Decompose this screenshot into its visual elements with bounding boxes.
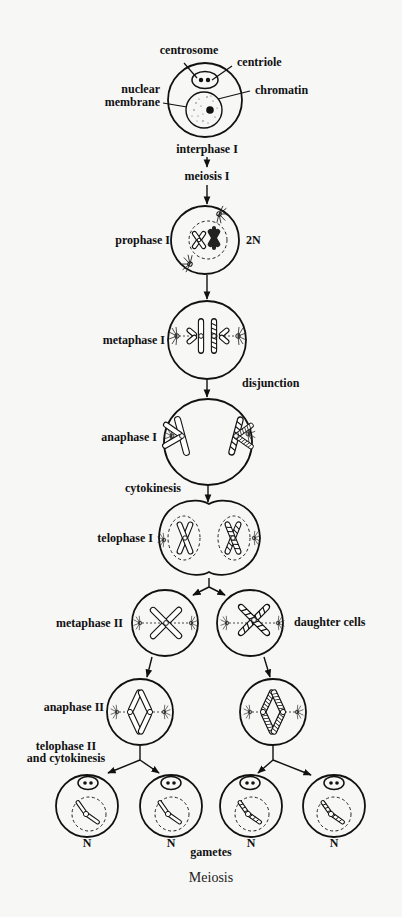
arrow-icon (258, 760, 273, 773)
gamete-cell-2 (140, 775, 202, 837)
label-meiosis: meiosis I (185, 169, 230, 183)
nucleolus-icon (206, 106, 214, 114)
label-metaphase2: metaphase II (56, 616, 123, 630)
metaphase2-cell-left (132, 590, 198, 656)
label-telophase2-2: and cytokinesis (27, 751, 106, 765)
anaphase2-cell-left (107, 679, 173, 745)
arrow-icon (193, 587, 209, 595)
label-cytokinesis: cytokinesis (125, 481, 181, 495)
arrow-icon (140, 760, 159, 773)
metaphase2-cell-right (217, 590, 284, 656)
centrosome-icon (192, 72, 218, 89)
gamete-cell-4 (303, 775, 365, 837)
label-ploidy-4: N (330, 836, 339, 850)
label-telophase1: telophase I (97, 531, 153, 545)
label-ploidy-3: N (247, 836, 256, 850)
label-prophase: prophase I (115, 233, 170, 247)
label-nuclear-membrane-1: nuclear (121, 82, 160, 96)
telophase1-cell (158, 501, 261, 575)
label-metaphase1: metaphase I (103, 333, 166, 347)
arrow-icon (147, 657, 152, 677)
label-centrosome: centrosome (160, 43, 219, 57)
arrow-icon (209, 587, 225, 595)
figure-caption: Meiosis (189, 870, 233, 885)
interphase-cell (163, 63, 250, 137)
label-ploidy-2: N (167, 836, 176, 850)
label-anaphase2: anaphase II (44, 700, 105, 714)
anaphase1-cell (162, 399, 256, 485)
arrow-icon (264, 657, 270, 677)
metaphase1-cell (168, 301, 246, 379)
label-disjunction: disjunction (242, 376, 300, 390)
label-anaphase1: anaphase I (101, 430, 157, 444)
centriole-icon (199, 78, 203, 82)
label-gametes: gametes (190, 845, 232, 859)
label-2n: 2N (246, 233, 261, 247)
meiosis-diagram: centrosome centriole chromatin nuclear m… (0, 0, 402, 917)
label-nuclear-membrane-2: membrane (105, 95, 161, 109)
anaphase2-cell-right (240, 679, 306, 745)
arrow-icon (273, 760, 311, 775)
label-interphase: interphase I (176, 142, 238, 156)
arrow-icon (108, 760, 140, 773)
gamete-cell-1 (56, 775, 118, 837)
label-ploidy-1: N (83, 836, 92, 850)
label-daughter-cells: daughter cells (294, 615, 366, 629)
label-chromatin: chromatin (255, 83, 308, 97)
label-centriole: centriole (237, 55, 282, 69)
nucleus-icon (186, 92, 222, 128)
prophase-cell (171, 205, 239, 274)
gamete-cell-3 (220, 775, 282, 837)
